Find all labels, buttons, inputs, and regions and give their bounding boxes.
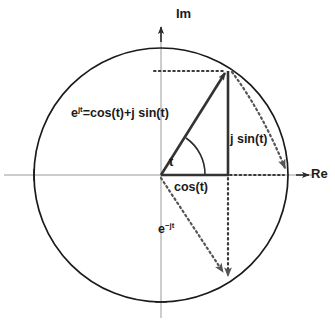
angle-arc [186,138,205,175]
imaginary-axis-label: Im [176,6,191,21]
euler-formula-label: ejt=cos(t)+j sin(t) [71,106,169,120]
euler-rest: =cos(t)+j sin(t) [83,106,169,120]
euler-base: e [71,106,78,120]
rotation-arrow-upper [232,72,285,168]
conjugate-exponent: −jt [165,221,174,230]
real-axis-label: Re [311,166,328,181]
conjugate-label: e−jt [158,222,174,236]
complex-plane-figure: Im Re ejt=cos(t)+j sin(t) j sin(t) cos(t… [0,0,335,327]
conjugate-base: e [158,222,165,236]
imaginary-part-label: j sin(t) [230,132,268,146]
unit-circle-diagram [0,0,335,327]
angle-label: t [169,154,173,169]
real-part-label: cos(t) [174,180,208,194]
